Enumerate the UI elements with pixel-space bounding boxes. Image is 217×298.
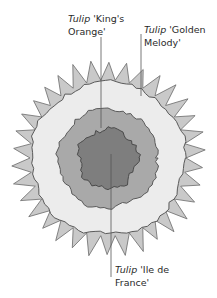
label-cultivar-cont: France' bbox=[115, 277, 149, 288]
label-cultivar: 'Golden bbox=[169, 24, 205, 35]
label-cultivar-cont: Melody' bbox=[144, 37, 181, 48]
label-kings-orange: Tulip 'King's Orange' bbox=[68, 12, 124, 38]
label-genus: Tulip bbox=[115, 264, 137, 275]
label-golden-melody: Tulip 'Golden Melody' bbox=[144, 23, 206, 49]
label-cultivar: 'King's bbox=[93, 13, 124, 24]
label-cultivar-cont: Orange' bbox=[68, 26, 106, 37]
label-ile-de-france: Tulip 'Ile de France' bbox=[115, 263, 169, 289]
label-cultivar: 'Ile de bbox=[140, 264, 169, 275]
label-genus: Tulip bbox=[68, 13, 90, 24]
label-genus: Tulip bbox=[144, 24, 166, 35]
